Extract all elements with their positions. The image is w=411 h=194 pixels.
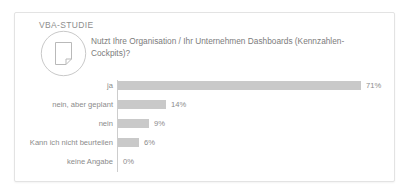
question-text: Nutzt Ihre Organisation / Ihr Unternehme…: [91, 36, 379, 59]
screenshot-root: VBA-STUDIE Nutzt Ihre Organisation / Ihr…: [0, 0, 411, 194]
bar[interactable]: [118, 119, 149, 128]
horizontal-bar-chart: ja 71% nein, aber geplant 14% nein: [15, 77, 396, 179]
bar-value-label: 9%: [154, 115, 165, 132]
study-title: VBA-STUDIE: [39, 20, 94, 30]
document-page-icon: [40, 30, 87, 77]
chart-row: nein, aber geplant 14%: [15, 96, 396, 113]
category-label: nein, aber geplant: [52, 96, 113, 113]
chart-row: keine Angabe 0%: [15, 153, 396, 170]
chart-row: Kann ich nicht beurteilen 6%: [15, 134, 396, 151]
chart-row: nein 9%: [15, 115, 396, 132]
bar-value-label: 6%: [144, 134, 155, 151]
bar-value-label: 0%: [123, 153, 134, 170]
bar[interactable]: [118, 81, 361, 90]
category-label: nein: [99, 115, 113, 132]
category-label: Kann ich nicht beurteilen: [30, 134, 113, 151]
bar-value-label: 14%: [171, 96, 186, 113]
bar[interactable]: [118, 100, 166, 109]
bar-value-label: 71%: [366, 77, 381, 94]
survey-result-card: VBA-STUDIE Nutzt Ihre Organisation / Ihr…: [14, 12, 395, 182]
chart-row: ja 71%: [15, 77, 396, 94]
category-label: ja: [107, 77, 113, 94]
bar[interactable]: [118, 138, 139, 147]
category-label: keine Angabe: [67, 153, 113, 170]
